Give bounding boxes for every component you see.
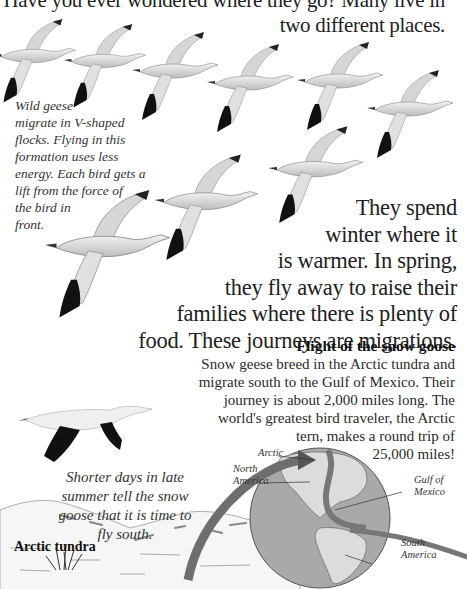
map-label-arctic: Arctic: [258, 447, 283, 459]
paragraph-line: is warmer. In spring,: [138, 248, 457, 275]
caption-line: migrate in V-shaped: [15, 114, 165, 131]
map-label-line: Gulf of: [414, 474, 445, 486]
section-line: Snow geese breed in the Arctic tundra an…: [199, 355, 455, 373]
caption-line: flocks. Flying in this: [15, 131, 165, 148]
map-label-line: America: [401, 549, 437, 561]
map-label-gulf-of-mexico: Gulf of Mexico: [414, 474, 445, 498]
paragraph-line: they fly away to raise their: [138, 275, 457, 302]
caption-line: energy. Each bird gets a: [15, 165, 165, 182]
section-line: migrate south to the Gulf of Mexico. The…: [199, 373, 455, 391]
goose-1: [0, 19, 76, 103]
section-heading: Flight of the snow goose: [199, 337, 455, 355]
map-label-line: Mexico: [414, 486, 445, 498]
map-label-south-america: South America: [401, 537, 437, 561]
section-line: journey is about 2,000 miles long. The: [199, 391, 455, 409]
globe-migration-map: [170, 430, 467, 589]
map-label-line: South: [401, 537, 437, 549]
paragraph-line: They spend: [138, 195, 457, 222]
caption-line: formation uses less: [15, 148, 165, 165]
caption-line: Wild geese: [15, 97, 165, 114]
paragraph-line: winter where it: [138, 222, 457, 249]
paragraph-line: families where there is plenty of: [138, 301, 457, 328]
arctic-tundra-label: Arctic tundra: [14, 539, 96, 555]
goose-6: [367, 70, 453, 158]
goose-5: [297, 42, 383, 130]
map-label-line: America: [233, 475, 269, 487]
map-label-line: North: [233, 463, 269, 475]
goose-4: [207, 44, 293, 132]
goose-2: [64, 24, 146, 108]
section-line: world's greatest bird traveler, the Arct…: [199, 409, 455, 427]
migration-paragraph: They spend winter where it is warmer. In…: [138, 195, 457, 354]
map-label-north-america: North America: [233, 463, 269, 487]
